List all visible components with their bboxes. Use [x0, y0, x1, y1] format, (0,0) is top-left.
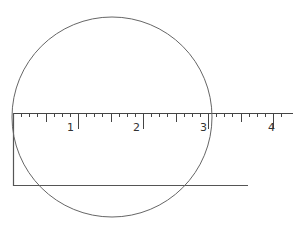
ruler-label-3: 3	[200, 121, 207, 134]
ruler-labels: 1 2 3 4	[67, 121, 275, 134]
bracket-line	[14, 113, 249, 186]
ruler-label-1: 1	[67, 121, 74, 134]
ruler-label-4: 4	[268, 121, 275, 134]
ruler-label-2: 2	[133, 121, 140, 134]
ruler	[13, 113, 293, 129]
diagram-canvas: 1 2 3 4	[0, 0, 302, 227]
